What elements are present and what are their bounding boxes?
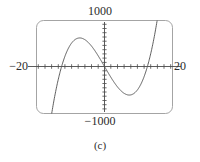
y-axis-max-label: 1000: [0, 5, 200, 17]
x-axis-min-label: −20: [2, 60, 28, 72]
figure-panel: −20 20 1000 −1000 (c): [0, 0, 200, 162]
plot-area: [0, 0, 200, 162]
figure-caption: (c): [0, 140, 200, 151]
y-axis-min-label: −1000: [0, 115, 200, 127]
x-axis-max-label: 20: [174, 60, 200, 72]
